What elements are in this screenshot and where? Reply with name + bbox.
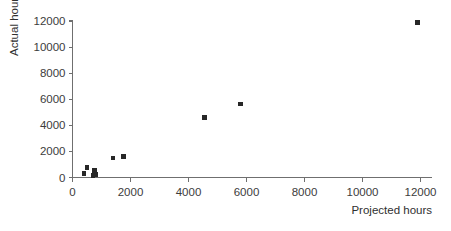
scatter-chart: 020004000600080001000012000 020004000600…: [0, 0, 451, 231]
data-point: [92, 168, 97, 173]
data-point-group: [82, 20, 420, 178]
x-axis-ticks: 020004000600080001000012000: [69, 178, 436, 198]
y-tick-label: 6000: [40, 93, 66, 105]
data-point: [85, 165, 90, 170]
y-tick-label: 4000: [40, 119, 66, 131]
x-axis-title: Projected hours: [351, 204, 432, 216]
x-tick-label: 6000: [234, 186, 260, 198]
x-tick-label: 2000: [118, 186, 144, 198]
data-point: [238, 102, 243, 107]
x-tick-label: 10000: [347, 186, 379, 198]
x-tick-label: 0: [69, 186, 75, 198]
data-point: [415, 20, 420, 25]
data-point: [121, 154, 126, 159]
chart-canvas: 020004000600080001000012000 020004000600…: [0, 0, 451, 231]
axis-lines: [73, 21, 433, 178]
data-point: [93, 172, 98, 177]
data-point: [202, 115, 207, 120]
x-tick-label: 8000: [292, 186, 318, 198]
y-tick-label: 12000: [34, 15, 66, 27]
y-tick-label: 0: [59, 172, 65, 184]
y-tick-label: 8000: [40, 67, 66, 79]
data-point: [111, 156, 116, 161]
data-point: [82, 171, 87, 176]
y-tick-label: 2000: [40, 145, 66, 157]
y-tick-label: 10000: [34, 41, 66, 53]
x-tick-label: 12000: [405, 186, 437, 198]
y-axis-title: Actual hours: [8, 0, 20, 56]
y-axis-ticks: 020004000600080001000012000: [34, 15, 73, 184]
x-tick-label: 4000: [176, 186, 202, 198]
